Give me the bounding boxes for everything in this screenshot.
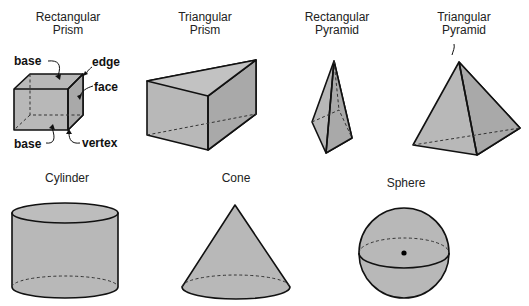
cone	[182, 205, 290, 299]
label-edge: edge	[92, 55, 120, 69]
cylinder-body	[12, 213, 118, 298]
sphere-center-point	[401, 250, 406, 255]
triangular-prism	[147, 60, 256, 150]
label-base-top: base	[14, 54, 42, 68]
label-face: face	[94, 80, 118, 94]
rectangular-prism: base edge face base vertex	[14, 54, 120, 151]
leader-vertex	[69, 133, 80, 143]
tpyramid-leader	[452, 44, 454, 55]
label-base-bottom: base	[14, 137, 42, 151]
rectangular-pyramid	[312, 61, 352, 153]
cone-body	[182, 205, 290, 299]
label-vertex: vertex	[82, 136, 118, 150]
cylinder-top	[12, 203, 118, 223]
cylinder	[12, 203, 118, 298]
sphere	[359, 208, 449, 298]
geometry-figure: base edge face base vertex	[0, 0, 529, 306]
triangular-pyramid	[413, 44, 520, 155]
